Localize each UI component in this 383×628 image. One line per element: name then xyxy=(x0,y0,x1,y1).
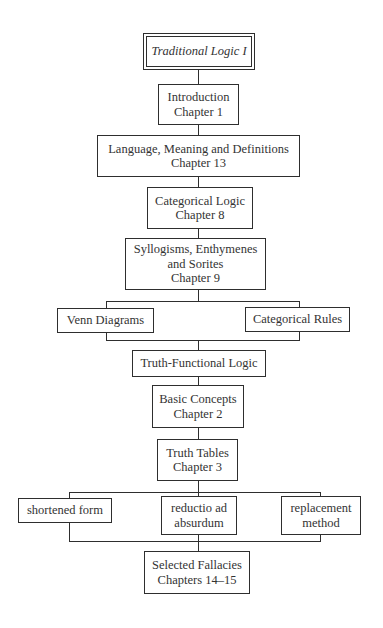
node-label: shortened form xyxy=(27,503,103,518)
node-syllogisms: Syllogisms, Enthymenes and Sorites Chapt… xyxy=(125,238,266,290)
node-label: Syllogisms, Enthymenes xyxy=(134,242,258,257)
node-label-2: method xyxy=(302,516,340,531)
node-chapter: Chapter 13 xyxy=(171,156,226,171)
node-label-2: absurdum xyxy=(174,516,223,531)
node-title-inner: Traditional Logic I xyxy=(146,36,252,67)
node-label: Selected Fallacies xyxy=(152,558,242,573)
node-title-label: Traditional Logic I xyxy=(151,44,246,59)
connector-basic-truthtables xyxy=(198,428,199,439)
node-label: Categorical Rules xyxy=(253,312,342,327)
connector-truthtables-branch xyxy=(198,481,199,492)
connector-truthfunctional-basic xyxy=(198,377,199,385)
connector-categorical-syllogisms xyxy=(198,229,199,238)
node-reductio-ad-absurdum: reductio ad absurdum xyxy=(161,496,237,535)
node-label: Language, Meaning and Definitions xyxy=(108,142,289,157)
node-label: Basic Concepts xyxy=(159,392,236,407)
node-chapter: Chapter 1 xyxy=(174,105,223,120)
node-chapter: Chapter 8 xyxy=(176,208,225,223)
node-label: Venn Diagrams xyxy=(67,313,144,328)
branch2-bottom-bar xyxy=(69,541,321,542)
node-label: Introduction xyxy=(168,90,230,105)
branch1-top-bar xyxy=(106,301,300,302)
node-chapter: Chapter 3 xyxy=(173,460,222,475)
node-introduction: Introduction Chapter 1 xyxy=(158,84,239,125)
node-chapter: Chapter 2 xyxy=(174,407,223,422)
node-truth-functional-logic: Truth-Functional Logic xyxy=(132,350,266,377)
node-label: replacement xyxy=(290,501,351,516)
node-label-2: and Sorites xyxy=(168,257,224,272)
node-label: Truth-Functional Logic xyxy=(140,356,257,371)
node-categorical-logic: Categorical Logic Chapter 8 xyxy=(147,187,253,229)
node-shortened-form: shortened form xyxy=(18,498,112,523)
node-truth-tables: Truth Tables Chapter 3 xyxy=(157,439,238,481)
node-label: reductio ad xyxy=(171,501,227,516)
node-venn-diagrams: Venn Diagrams xyxy=(57,308,154,333)
node-basic-concepts: Basic Concepts Chapter 2 xyxy=(152,385,244,428)
node-language: Language, Meaning and Definitions Chapte… xyxy=(97,135,300,177)
branch2-top-bar xyxy=(69,492,321,493)
node-chapter: Chapters 14–15 xyxy=(158,573,237,588)
node-replacement-method: replacement method xyxy=(281,496,361,535)
node-categorical-rules: Categorical Rules xyxy=(245,307,350,332)
connector-title-introduction xyxy=(198,70,199,84)
connector-language-categorical xyxy=(198,177,199,187)
connector-branch2-fallacies xyxy=(198,541,199,551)
node-selected-fallacies: Selected Fallacies Chapters 14–15 xyxy=(144,551,250,594)
connector-syllogisms-branch xyxy=(198,290,199,301)
node-chapter: Chapter 9 xyxy=(171,271,220,286)
connector-branch1-truthfunctional xyxy=(198,340,199,350)
node-label: Truth Tables xyxy=(166,446,229,461)
node-label: Categorical Logic xyxy=(155,194,245,209)
connector-introduction-language xyxy=(198,125,199,135)
node-title: Traditional Logic I xyxy=(143,33,255,70)
branch1-bottom-bar xyxy=(106,340,300,341)
flowchart: Traditional Logic I Introduction Chapter… xyxy=(0,0,383,628)
